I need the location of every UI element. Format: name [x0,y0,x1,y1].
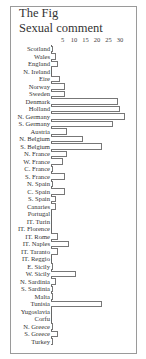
bar [51,53,56,60]
bar-row: IT. Reggio [0,255,146,263]
category-label: IT. Naples [23,240,50,248]
category-label: C. Spain [27,188,50,196]
bar [51,331,58,338]
category-label: N. Belgium [19,135,50,143]
bar-row: IT. Taranto [0,248,146,256]
bar [51,293,53,300]
category-label: S. France [25,173,50,181]
bar-row: Corfu [0,315,146,323]
category-label: Portugal [28,210,50,218]
bar [51,188,65,195]
bar [51,106,120,113]
bar [51,91,65,98]
category-label: N. Ireland [23,68,50,76]
category-label: England [28,60,50,68]
category-label: S. Germany [19,120,51,128]
bar [51,248,58,255]
bar [51,136,83,143]
bar [51,233,58,240]
category-label: N. France [24,150,50,158]
bar [51,166,53,173]
bar-row: Malta [0,293,146,301]
category-label: Holland [29,105,50,113]
category-label: Canaries [27,203,50,211]
bar [51,61,58,68]
bar-row: Canaries [0,203,146,211]
category-label: IT. Florence [18,225,50,233]
category-label: IT. Rome [25,233,50,241]
category-label: S. Sardinia [21,285,50,293]
bar-row: N. Greece [0,323,146,331]
chart-title: The Fig [19,6,58,21]
bar-row: S. Germany [0,120,146,128]
category-label: IT. Reggio [22,255,50,263]
bar [51,121,113,128]
bar [51,271,76,278]
bar [51,241,69,248]
bar-row: Norway [0,83,146,91]
category-label: C. France [24,165,50,173]
category-label: S. Greece [24,330,50,338]
bar-row: Sweden [0,90,146,98]
bar-row: Turkey [0,338,146,346]
category-label: W. Sicily [26,270,50,278]
bar [51,181,53,188]
x-tick-label: 10 [71,36,78,43]
category-label: Denmark [25,98,50,106]
bar [51,143,102,150]
category-label: W. France [23,158,50,166]
bar-row: W. France [0,158,146,166]
bar-row: IT. Florence [0,225,146,233]
category-label: S. Belgium [20,143,50,151]
x-tick-label: 5 [61,36,64,43]
bar-row: S. Spain [0,195,146,203]
chart-subtitle: Sexual comment [19,21,103,36]
bar-row: Austria [0,128,146,136]
bar-row: N. Belgium [0,135,146,143]
category-label: N. Spain [27,180,50,188]
bar [51,263,53,270]
bar [51,158,63,165]
x-tick-label: 15 [82,36,89,43]
bar [51,83,65,90]
category-label: E. Sicily [27,263,50,271]
bar-row: Scotland [0,45,146,53]
bar-row: N. Spain [0,180,146,188]
category-label: IT. Turin [27,218,50,226]
category-label: N. Greece [23,323,50,331]
bar-row: S. France [0,173,146,181]
category-label: Scotland [27,45,50,53]
bar [51,338,53,345]
bar-row: C. Spain [0,188,146,196]
bar [51,128,67,135]
bar [51,113,125,120]
bar [51,151,67,158]
x-tick-label: 30 [117,36,124,43]
bar [51,301,102,308]
bar [51,76,60,83]
category-label: N. Sardinia [20,278,50,286]
category-label: N. Germany [17,113,50,121]
category-label: Austria [31,128,50,136]
x-tick-label: 25 [105,36,112,43]
bar-row: Holland [0,105,146,113]
category-label: S. Spain [28,195,50,203]
bar-row: England [0,60,146,68]
category-label: Malta [35,293,50,301]
bar [51,203,56,210]
x-tick-label: 20 [94,36,101,43]
bar [51,98,118,105]
bar-row: E. Sicily [0,263,146,271]
bar-row: IT. Naples [0,240,146,248]
category-label: Norway [29,83,50,91]
bar [51,46,53,53]
bar-row: N. Sardinia [0,278,146,286]
category-label: Sweden [29,90,50,98]
bar-row: IT. Rome [0,233,146,241]
category-label: Yugoslavia [21,308,50,316]
bar-row: N. Ireland [0,68,146,76]
category-label: Eire [39,75,50,83]
bar [51,196,56,203]
category-label: IT. Taranto [21,248,50,256]
bar-row: Wales [0,53,146,61]
